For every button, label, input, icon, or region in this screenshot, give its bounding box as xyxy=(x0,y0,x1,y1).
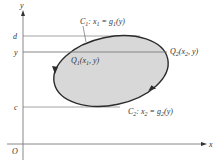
point1-label: Q1(x1, y) xyxy=(71,56,100,66)
origin-label: O xyxy=(12,147,18,156)
x-axis-label: x xyxy=(208,140,213,149)
curve1-label: C1: x1 = g1(y) xyxy=(80,17,125,27)
c1-leader-line xyxy=(83,26,86,42)
y-axis-label: y xyxy=(19,1,24,10)
curve2-label: C2: x2 = g2(y) xyxy=(128,107,173,117)
y-axis-arrow-icon xyxy=(21,10,25,16)
tick-label-c: c xyxy=(14,103,18,112)
x-axis-arrow-icon xyxy=(201,142,207,146)
tick-label-y: y xyxy=(13,48,18,57)
tick-label-d: d xyxy=(13,32,18,41)
point2-label: Q2(x2, y) xyxy=(170,47,199,57)
green-theorem-region-diagram: y x O d y c C1: x1 = g1(y) Q1(x1, y) Q2(… xyxy=(0,0,220,165)
region-boundary xyxy=(47,26,175,117)
